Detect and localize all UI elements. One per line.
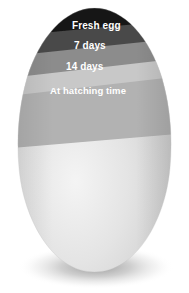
egg-side-shading [0,0,189,293]
egg-diagram: Fresh egg 7 days 14 days At hatching tim… [0,0,189,293]
egg-illustration [0,0,189,293]
